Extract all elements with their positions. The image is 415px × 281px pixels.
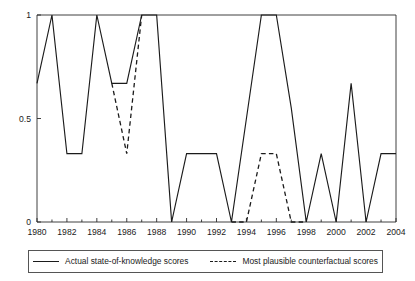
y-tick-label: 0.5	[19, 114, 31, 124]
line-chart: 00.51 1980198219841986198819901992199419…	[0, 0, 415, 240]
x-tick-group: 1980198219841986198819901992199419961998…	[27, 218, 405, 237]
x-tick-label: 1998	[297, 227, 316, 237]
x-tick-label: 2000	[327, 227, 346, 237]
legend-label-counterfactual: Most plausible counterfactual scores	[242, 257, 377, 265]
y-tick-group: 00.51	[19, 10, 41, 227]
x-tick-label: 1990	[177, 227, 196, 237]
chart-legend: Actual state-of-knowledge scores Most pl…	[28, 250, 383, 273]
x-tick-label: 1986	[117, 227, 136, 237]
legend-label-actual: Actual state-of-knowledge scores	[65, 257, 188, 265]
x-tick-label: 1996	[267, 227, 286, 237]
x-tick-label: 1988	[147, 227, 166, 237]
y-tick-label: 1	[26, 10, 31, 20]
legend-swatch-dashed-line-icon	[210, 261, 236, 262]
axis-box	[37, 15, 396, 222]
legend-entry-counterfactual: Most plausible counterfactual scores	[210, 257, 377, 265]
plot-area: 00.51 1980198219841986198819901992199419…	[0, 0, 415, 240]
legend-entry-actual: Actual state-of-knowledge scores	[33, 257, 188, 265]
x-tick-label: 2004	[386, 227, 405, 237]
series-line-actual	[37, 15, 396, 222]
x-tick-label: 1984	[87, 227, 106, 237]
series-group	[37, 15, 396, 222]
x-tick-label: 1982	[57, 227, 76, 237]
x-tick-label: 1992	[207, 227, 226, 237]
series-line-counterfactual-segment-1	[231, 154, 306, 222]
x-tick-label: 2002	[357, 227, 376, 237]
axes-group	[37, 15, 396, 222]
legend-swatch-solid-line-icon	[33, 261, 59, 262]
x-tick-label: 1980	[27, 227, 46, 237]
y-tick-label: 0	[26, 217, 31, 227]
x-tick-label: 1994	[237, 227, 256, 237]
figure: 00.51 1980198219841986198819901992199419…	[0, 0, 415, 281]
